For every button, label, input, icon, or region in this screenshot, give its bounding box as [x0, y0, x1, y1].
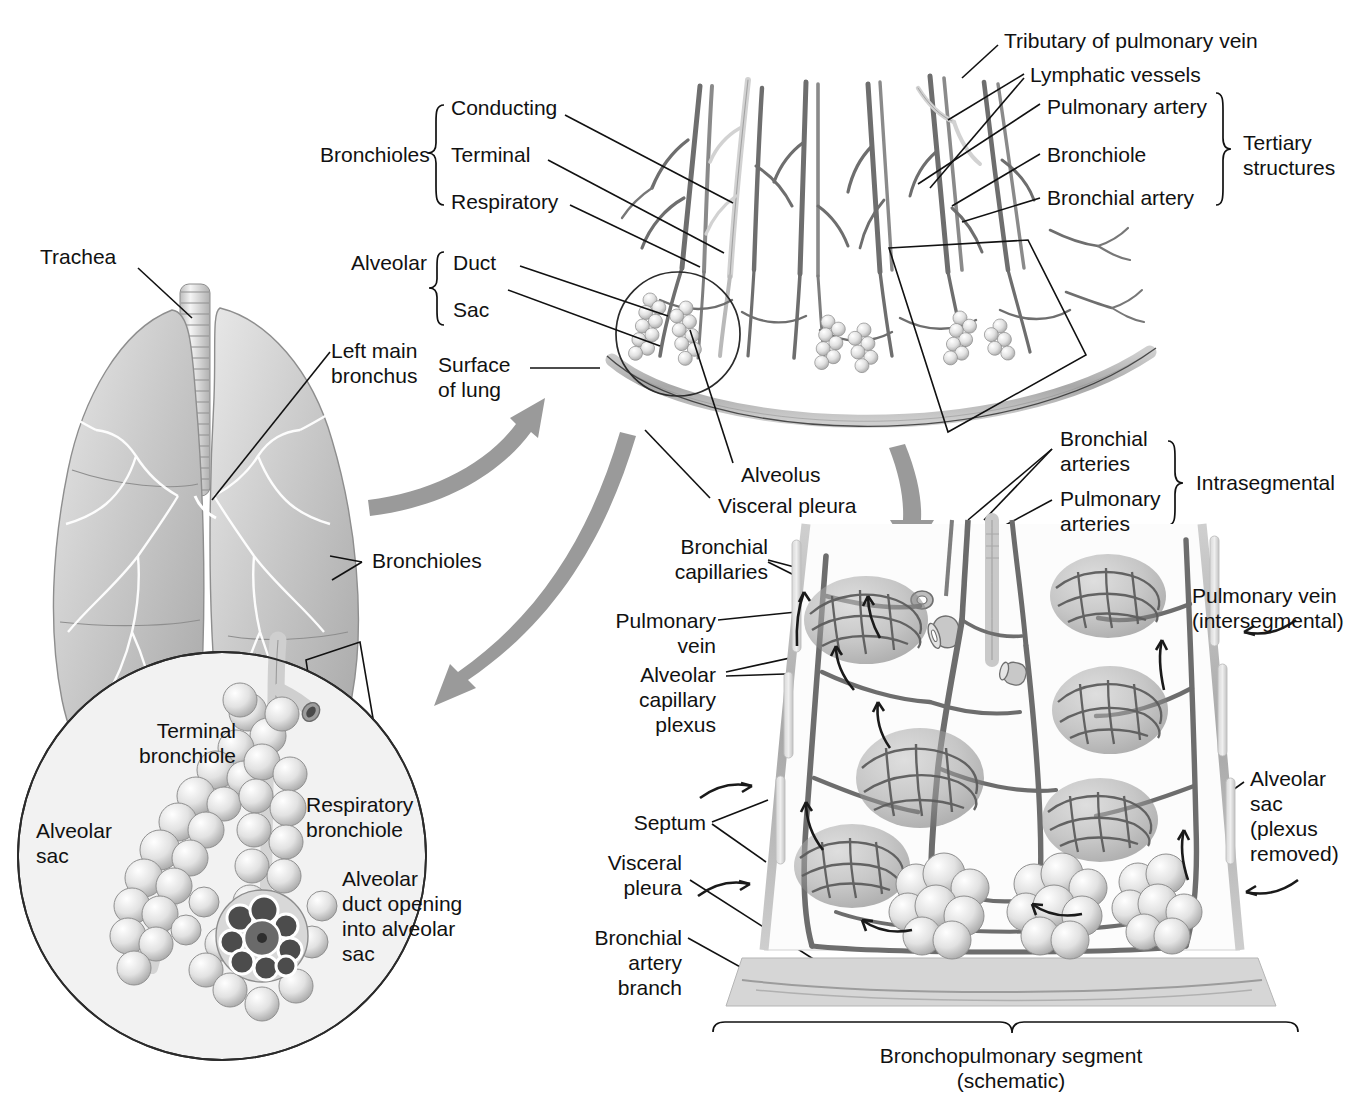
label-pulmonary-arteries: Pulmonary arteries	[1060, 486, 1160, 536]
tertiary-structures-illustration	[607, 76, 1156, 432]
label-lymphatic-vessels: Lymphatic vessels	[1030, 62, 1201, 87]
label-surface-of-lung: Surface of lung	[438, 352, 510, 402]
alveolar-sac-cluster	[942, 309, 979, 368]
alveolar-sac-cluster	[814, 314, 847, 372]
label-tertiary-structures: Tertiary structures	[1243, 130, 1335, 180]
label-alveolar-sac: Alveolar sac	[36, 818, 112, 868]
label-visceral-pleura-bottom: Visceral pleura	[572, 850, 682, 900]
label-left-main-bronchus: Left main bronchus	[331, 338, 417, 388]
pleura-base-slab	[726, 958, 1276, 1006]
label-pulmonary-vein: Pulmonary vein	[588, 608, 716, 658]
vessel-bundle-5	[910, 76, 982, 354]
brace-bronchioles	[428, 105, 444, 205]
visceral-pleura-surface	[612, 352, 1150, 421]
alveolar-sac-cluster-group	[627, 291, 1016, 374]
label-alveolar-duct-opening: Alveolar duct opening into alveolar sac	[342, 866, 462, 966]
brace-tertiary	[1216, 93, 1231, 205]
vessel-bundle-3	[774, 82, 848, 358]
label-bronchial-arteries: Bronchial arteries	[1060, 426, 1148, 476]
label-duct: Duct	[453, 250, 496, 275]
label-septum: Septum	[588, 810, 706, 835]
label-alveolar-group: Alveolar	[351, 250, 427, 275]
label-bronchial-artery: Bronchial artery	[1047, 185, 1194, 210]
label-respiratory-bronchiole: Respiratory bronchiole	[306, 792, 413, 842]
label-alveolar-sac-plexus-removed: Alveolar sac (plexus removed)	[1250, 766, 1339, 866]
figure-canvas: Trachea Left main bronchus Bronchioles B…	[0, 0, 1361, 1109]
label-visceral-pleura-top: Visceral pleura	[718, 493, 857, 518]
label-bronchioles-group: Bronchioles	[320, 142, 430, 167]
brace-alveolar	[429, 252, 444, 325]
label-pulmonary-vein-intersegmental: Pulmonary vein (intersegmental)	[1192, 583, 1344, 633]
label-bronchioles-lung: Bronchioles	[372, 548, 482, 573]
label-intrasegmental: Intrasegmental	[1196, 470, 1335, 495]
label-alveolar-capillary-plexus: Alveolar capillary plexus	[588, 662, 716, 737]
label-bronchial-capillaries: Bronchial capillaries	[588, 534, 768, 584]
label-terminal-bronchiole: Terminal bronchiole	[64, 718, 236, 768]
brace-intrasegmental	[1168, 441, 1183, 525]
brace-bronchopulmonary-segment	[713, 1022, 1298, 1033]
label-alveolus: Alveolus	[741, 462, 820, 487]
label-pulmonary-artery: Pulmonary artery	[1047, 94, 1207, 119]
alveolar-sac-cluster	[982, 317, 1016, 363]
vessel-bundle-4	[848, 82, 892, 356]
label-conducting: Conducting	[451, 95, 557, 120]
arrow-lung-to-fan	[368, 398, 545, 516]
alveolar-sac-plexus-removed-group	[889, 853, 1202, 959]
label-terminal: Terminal	[451, 142, 530, 167]
alveolar-duct-opening-cluster	[216, 890, 308, 982]
alveolar-sac-cluster	[846, 322, 880, 374]
label-respiratory: Respiratory	[451, 189, 558, 214]
label-tributary-of-pulmonary-vein: Tributary of pulmonary vein	[1004, 28, 1258, 53]
label-trachea: Trachea	[40, 244, 116, 269]
label-sac: Sac	[453, 297, 489, 322]
label-bronchial-artery-branch: Bronchial artery branch	[572, 925, 682, 1000]
caption-bronchopulmonary-segment: Bronchopulmonary segment (schematic)	[705, 1043, 1317, 1093]
label-bronchiole: Bronchiole	[1047, 142, 1146, 167]
